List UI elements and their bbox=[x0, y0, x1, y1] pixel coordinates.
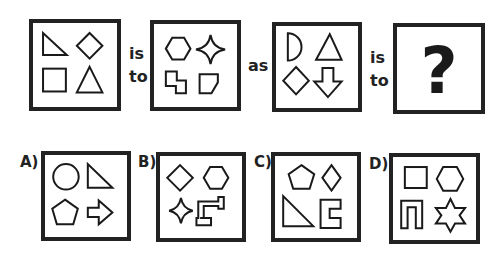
option-a-box[interactable] bbox=[41, 151, 131, 241]
query-source-box bbox=[272, 22, 362, 112]
option-d-label: D) bbox=[369, 157, 388, 172]
triangle-icon bbox=[316, 34, 342, 60]
l-shape-icon bbox=[200, 74, 218, 93]
triangle-icon bbox=[77, 67, 103, 93]
square-icon bbox=[405, 167, 427, 188]
option-b-label: B) bbox=[138, 155, 156, 170]
stepped-polygon-icon bbox=[166, 71, 186, 93]
is-label: is bbox=[370, 50, 385, 66]
six-point-star-icon bbox=[436, 199, 465, 232]
square-icon bbox=[43, 69, 66, 92]
right-triangle-icon bbox=[43, 33, 67, 55]
four-point-star-icon bbox=[169, 198, 193, 224]
option-a-label: A) bbox=[20, 155, 38, 170]
diamond-icon bbox=[77, 33, 103, 59]
example-source-box bbox=[29, 19, 121, 111]
query-target-box: ? bbox=[393, 23, 485, 114]
c-bracket-icon bbox=[321, 200, 341, 228]
to-label: to bbox=[129, 69, 148, 85]
hexagon-icon bbox=[166, 38, 191, 60]
half-circle-icon bbox=[288, 33, 302, 60]
circle-icon bbox=[53, 164, 79, 190]
as-label: as bbox=[248, 58, 268, 74]
option-c-box[interactable] bbox=[271, 152, 361, 242]
pentagon-icon bbox=[52, 200, 78, 225]
to-label: to bbox=[370, 73, 389, 89]
four-point-star-icon bbox=[196, 35, 225, 64]
right-arrow-icon bbox=[88, 201, 113, 225]
hexagon-icon bbox=[204, 167, 229, 189]
zigzag-polygon-icon bbox=[196, 197, 223, 225]
down-arrow-icon bbox=[314, 68, 341, 97]
question-mark: ? bbox=[397, 39, 481, 103]
option-d-box[interactable] bbox=[389, 153, 480, 244]
option-c-label: C) bbox=[254, 155, 272, 170]
u-shape-icon bbox=[401, 201, 422, 228]
diamond-icon bbox=[283, 67, 309, 94]
example-target-box bbox=[150, 20, 241, 111]
right-triangle-icon bbox=[88, 164, 113, 188]
pentagon-icon bbox=[289, 165, 315, 189]
diamond-icon bbox=[322, 165, 340, 191]
diamond-icon bbox=[167, 165, 193, 191]
hexagon-icon bbox=[437, 167, 463, 191]
right-triangle-icon bbox=[283, 196, 313, 226]
option-b-box[interactable] bbox=[156, 152, 246, 242]
is-label: is bbox=[129, 46, 144, 62]
